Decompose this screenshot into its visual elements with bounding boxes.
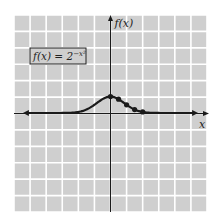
data-point [116, 97, 121, 102]
data-point [124, 102, 129, 107]
function-graph: f(x) = 2−x² f(x) x [0, 0, 217, 221]
function-label-base: f(x) = 2 [32, 50, 73, 62]
data-point [132, 107, 137, 112]
function-label-box: f(x) = 2−x² [30, 48, 86, 64]
data-point [140, 109, 145, 114]
y-axis-label: f(x) [114, 17, 134, 30]
data-point [108, 94, 113, 99]
x-axis-label: x [199, 118, 206, 131]
function-label-exponent: −x² [73, 50, 86, 58]
